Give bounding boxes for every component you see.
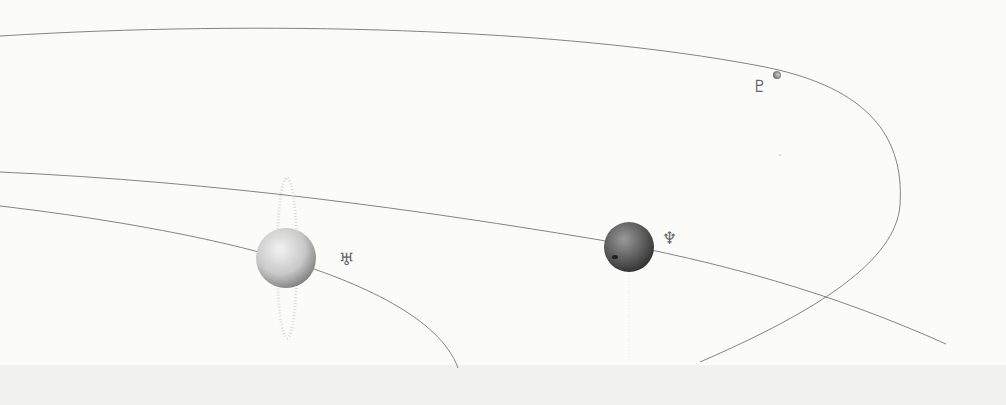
neptune-planet xyxy=(604,222,654,272)
uranus-planet xyxy=(256,228,316,288)
pluto-symbol: ♇ xyxy=(752,78,767,95)
neptune-symbol: ♆ xyxy=(662,230,677,247)
orbit-diagram xyxy=(0,0,1006,405)
uranus-symbol: ♅ xyxy=(339,251,354,268)
neptune-orbit xyxy=(0,172,946,344)
uranus-orbit xyxy=(0,206,458,368)
pluto-planet xyxy=(773,71,781,79)
